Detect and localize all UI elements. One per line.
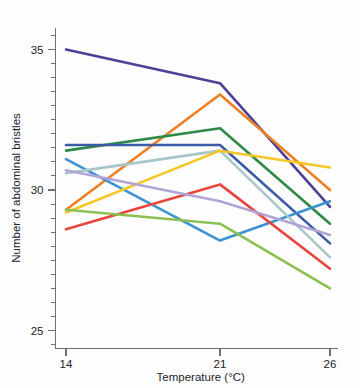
x-axis-tick-label: 21 <box>214 358 227 370</box>
series-line-line-6-pale-teal <box>66 151 330 258</box>
chart-figure: 253035142126Temperature (°C)Number of ab… <box>0 0 360 388</box>
y-axis-tick-label: 25 <box>31 325 44 337</box>
series-line-line-2-orange <box>66 94 330 209</box>
y-axis-tick-label: 35 <box>31 44 44 56</box>
x-axis-tick-label: 26 <box>324 358 337 370</box>
series-layer <box>66 50 330 289</box>
axis-labels-layer: 253035142126Temperature (°C)Number of ab… <box>10 44 336 383</box>
y-axis-title: Number of abdominal bristles <box>10 113 22 263</box>
x-axis-title: Temperature (°C) <box>157 371 245 383</box>
reaction-norm-line-chart: 253035142126Temperature (°C)Number of ab… <box>0 0 360 388</box>
x-axis-tick-label: 14 <box>60 358 73 370</box>
series-line-line-5-blue <box>66 159 330 240</box>
series-line-line-1-dark-purple <box>66 50 330 207</box>
y-axis-tick-label: 30 <box>31 184 44 196</box>
